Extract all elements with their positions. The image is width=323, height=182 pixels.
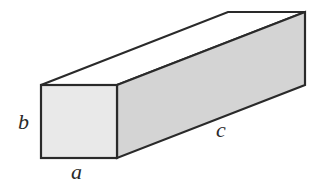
label-c: c — [216, 117, 226, 142]
label-b: b — [18, 109, 29, 134]
front-face — [41, 85, 117, 158]
label-a: a — [71, 159, 82, 182]
prism-diagram: b a c — [0, 0, 323, 182]
